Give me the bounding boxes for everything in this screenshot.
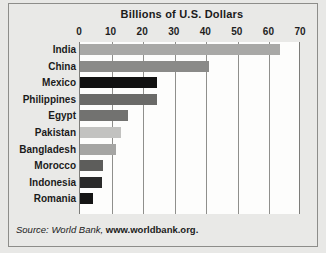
bar-row [80,42,299,58]
bar-china [80,61,209,72]
bar-morocco [80,160,103,171]
category-label-bangladesh: Bangladesh [19,142,76,158]
bar-row [80,125,299,141]
category-label-morocco: Morocco [34,158,76,174]
x-tick-label-40: 40 [200,26,211,37]
category-axis-labels: IndiaChinaMexicoPhilippinesEgyptPakistan… [10,42,76,214]
category-label-china: China [48,59,76,75]
x-axis-tick-labels: 010203040506070 [79,26,300,40]
bar-philippines [80,94,157,105]
category-label-egypt: Egypt [48,108,76,124]
category-label-indonesia: Indonesia [29,175,76,191]
x-tick-label-20: 20 [137,26,148,37]
bar-romania [80,193,93,204]
bar-india [80,44,280,55]
bar-row [80,142,299,158]
bar-row [80,108,299,124]
category-label-mexico: Mexico [42,75,76,91]
x-tick-label-10: 10 [105,26,116,37]
plot-area [79,42,300,214]
x-tick-label-0: 0 [76,26,82,37]
bar-row [80,191,299,207]
x-tick-label-60: 60 [263,26,274,37]
source-note: Source: World Bank, www.worldbank.org. [16,224,198,235]
bar-row [80,175,299,191]
bar-bangladesh [80,144,116,155]
bar-row [80,59,299,75]
category-label-india: India [53,42,76,58]
source-prefix: Source: World Bank, [16,224,103,235]
x-tick-label-70: 70 [294,26,305,37]
category-label-philippines: Philippines [23,92,76,108]
bar-row [80,158,299,174]
bar-series [80,42,299,214]
category-label-pakistan: Pakistan [35,125,76,141]
chart-title: Billions of U.S. Dollars [0,8,326,20]
category-label-romania: Romania [34,191,76,207]
bar-pakistan [80,127,121,138]
x-tick-label-30: 30 [168,26,179,37]
bar-egypt [80,110,128,121]
source-url: www.worldbank.org. [106,224,199,235]
bar-mexico [80,77,157,88]
bar-indonesia [80,177,102,188]
chart-figure: Billions of U.S. Dollars 010203040506070… [0,0,326,253]
x-tick-label-50: 50 [231,26,242,37]
bar-row [80,75,299,91]
bar-row [80,92,299,108]
